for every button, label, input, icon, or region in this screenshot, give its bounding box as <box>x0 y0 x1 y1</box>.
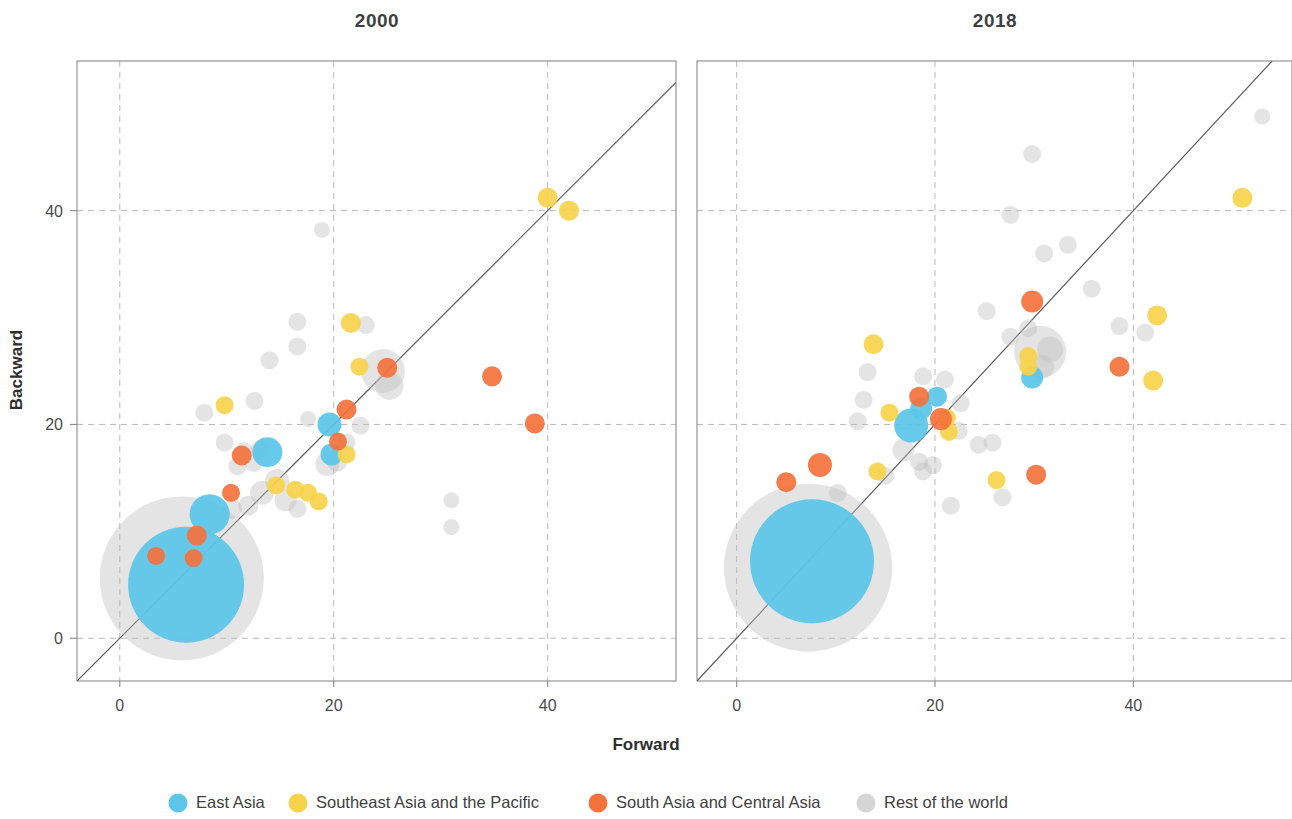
legend-swatch-0 <box>169 794 188 813</box>
data-point <box>1232 188 1252 208</box>
data-point <box>855 391 873 409</box>
data-point <box>936 371 954 389</box>
xtick-label-0: 0 <box>115 697 124 714</box>
data-point <box>267 476 285 494</box>
data-point <box>1110 317 1128 335</box>
data-point <box>984 434 1002 452</box>
data-point <box>185 549 203 567</box>
data-point <box>1059 236 1077 254</box>
data-point <box>216 434 234 452</box>
data-point <box>952 394 970 412</box>
data-point <box>525 413 545 433</box>
data-point <box>350 358 368 376</box>
data-point <box>808 453 832 477</box>
data-point <box>987 471 1005 489</box>
data-point <box>868 462 886 480</box>
data-point <box>377 358 397 378</box>
data-point <box>443 492 459 508</box>
data-point <box>128 527 244 643</box>
data-point <box>993 488 1011 506</box>
xtick-label-20: 20 <box>325 697 343 714</box>
legend-label-1: Southeast Asia and the Pacific <box>316 793 539 811</box>
data-point <box>252 437 282 467</box>
data-point <box>1026 465 1046 485</box>
data-point <box>864 334 884 354</box>
ytick-label-0: 0 <box>54 630 63 647</box>
data-point <box>288 500 306 518</box>
xtick-label-40: 40 <box>1124 697 1142 714</box>
x-axis-title: Forward <box>612 735 679 754</box>
data-point <box>288 337 306 355</box>
data-point <box>288 313 306 331</box>
ytick-label-20: 20 <box>45 416 63 433</box>
data-point <box>909 387 929 407</box>
legend-label-3: Rest of the world <box>884 793 1008 811</box>
data-point <box>1147 305 1167 325</box>
panel-title-left: 2000 <box>355 10 399 31</box>
data-point <box>337 399 357 419</box>
axis-ticks: 0204002040 <box>45 203 556 714</box>
legend-label-2: South Asia and Central Asia <box>616 793 821 811</box>
data-point <box>443 519 459 535</box>
data-point <box>776 472 796 492</box>
data-point <box>310 492 328 510</box>
legend-swatch-1 <box>289 794 308 813</box>
data-point <box>1021 291 1043 313</box>
panel-2018: 02040 <box>697 61 1292 714</box>
data-point <box>1035 244 1053 262</box>
data-point <box>314 222 330 238</box>
panels-layer: 020400204002040 <box>45 61 1292 714</box>
data-points <box>724 109 1270 652</box>
data-point <box>1019 319 1037 337</box>
data-point <box>482 366 502 386</box>
data-point <box>1083 280 1101 298</box>
data-point <box>1001 328 1019 346</box>
panel-title-right: 2018 <box>973 10 1017 31</box>
data-point <box>942 497 960 515</box>
data-point <box>859 363 877 381</box>
data-point <box>351 417 369 435</box>
data-point <box>750 499 874 623</box>
legend-swatch-2 <box>589 794 608 813</box>
bubble-scatter-figure: 020400204002040 2000 2018 Forward Backwa… <box>0 0 1292 819</box>
ytick-label-40: 40 <box>45 203 63 220</box>
data-point <box>300 411 316 427</box>
data-point <box>216 396 234 414</box>
data-point <box>341 313 361 333</box>
data-point <box>930 408 952 430</box>
data-point <box>1254 109 1270 125</box>
legend: East AsiaSoutheast Asia and the PacificS… <box>169 793 1008 812</box>
data-point <box>880 404 898 422</box>
data-point <box>1136 324 1154 342</box>
data-point <box>559 201 579 221</box>
legend-swatch-3 <box>857 794 876 813</box>
data-point <box>147 547 165 565</box>
y-axis-title: Backward <box>7 330 26 410</box>
data-point <box>914 367 932 385</box>
xtick-label-40: 40 <box>539 697 557 714</box>
data-point <box>222 484 240 502</box>
xtick-label-0: 0 <box>732 697 741 714</box>
data-point <box>246 392 264 410</box>
data-point <box>1001 206 1019 224</box>
data-point <box>927 387 947 407</box>
plot-svg: 020400204002040 2000 2018 Forward Backwa… <box>0 0 1292 819</box>
data-point <box>538 188 558 208</box>
data-point <box>187 526 207 546</box>
data-point <box>329 433 347 451</box>
data-point <box>829 484 847 502</box>
data-point <box>232 445 252 465</box>
data-point <box>1019 358 1037 376</box>
data-point <box>1109 357 1129 377</box>
axis-ticks: 02040 <box>732 681 1142 714</box>
legend-label-0: East Asia <box>196 793 266 811</box>
xtick-label-20: 20 <box>926 697 944 714</box>
data-point <box>849 412 867 430</box>
data-point <box>1143 371 1163 391</box>
series-south-asia-and-central-asia <box>776 291 1129 493</box>
data-point <box>914 462 932 480</box>
data-point <box>978 302 996 320</box>
data-point <box>195 404 213 422</box>
panel-2000: 0204002040 <box>45 61 676 714</box>
data-point <box>1023 145 1041 163</box>
